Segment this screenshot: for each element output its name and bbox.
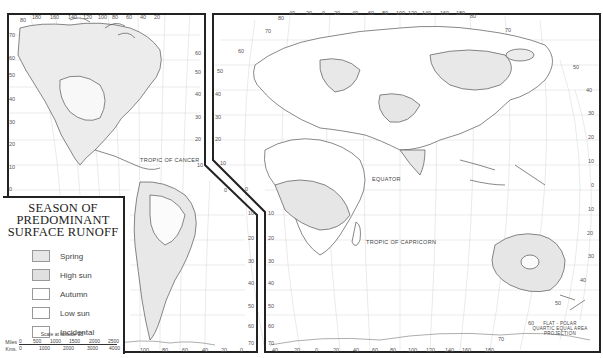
equator-label: EQUATOR xyxy=(372,176,401,182)
scale-tick: 1000 xyxy=(39,345,50,351)
legend-label: Spring xyxy=(60,252,83,261)
scale-tick: 2000 xyxy=(63,345,74,351)
tick: 120 xyxy=(408,10,417,16)
tick: 50 xyxy=(217,68,223,74)
tick: 20 xyxy=(587,230,593,236)
tick: 20 xyxy=(294,347,300,353)
tick: 80 xyxy=(390,347,396,353)
tick: 140 xyxy=(445,347,454,353)
tick: 80 xyxy=(278,15,284,21)
swatch-autumn xyxy=(32,288,50,300)
tick: 40 xyxy=(289,10,295,16)
tick: 160 xyxy=(440,10,449,16)
scale-tick: 3000 xyxy=(87,345,98,351)
eurasia xyxy=(254,26,553,150)
tick: 50 xyxy=(573,64,579,70)
tick: 40 xyxy=(140,14,146,20)
tick: 0 xyxy=(240,347,243,353)
tick: 40 xyxy=(353,347,359,353)
tick: 70 xyxy=(268,340,274,346)
scale-tick: 0 xyxy=(19,345,22,351)
tick: 30 xyxy=(195,114,201,120)
swatch-low-sun xyxy=(32,307,50,319)
tick: 30 xyxy=(248,258,254,264)
scale-unit-kms: Kms. xyxy=(3,346,19,352)
tick: 20 xyxy=(334,10,340,16)
tick: 20 xyxy=(195,136,201,142)
tick: 20 xyxy=(588,134,594,140)
tick: 50 xyxy=(248,303,254,309)
legend-item-low-sun: Low sun xyxy=(32,304,123,322)
tick: 80 xyxy=(112,14,118,20)
tick: 180 xyxy=(456,10,465,16)
tick: 20 xyxy=(221,347,227,353)
tick: 60 xyxy=(238,48,244,54)
tick: 20 xyxy=(154,14,160,20)
tick: 160 xyxy=(462,347,471,353)
tick: 70 xyxy=(248,340,254,346)
legend-label: High sun xyxy=(60,271,92,280)
antarctica-edge xyxy=(110,333,590,345)
tick: 60 xyxy=(528,320,534,326)
tick: 20 xyxy=(333,347,339,353)
tick: 10 xyxy=(268,210,274,216)
projection-line: PROJECTION xyxy=(530,331,590,336)
scale-bar: Scale at latitude 35° Miles 0 500 1000 1… xyxy=(3,331,123,352)
tick: 30 xyxy=(588,253,594,259)
tick: 60 xyxy=(248,323,254,329)
tick: 100 xyxy=(140,347,149,353)
tick: 50 xyxy=(555,300,561,306)
tick: 20 xyxy=(268,235,274,241)
tick: 40 xyxy=(268,280,274,286)
north-america xyxy=(18,18,161,170)
tick: 10 xyxy=(197,162,203,168)
tick: 20 xyxy=(306,10,312,16)
tick: 0 xyxy=(315,347,318,353)
tick: 20 xyxy=(248,235,254,241)
legend-item-spring: Spring xyxy=(32,247,123,265)
tick: 40 xyxy=(202,347,208,353)
projection-note: FLAT - POLAR QUARTIC EQUAL AREA PROJECTI… xyxy=(530,321,590,336)
tick: 50 xyxy=(195,69,201,75)
tick: 180 xyxy=(32,14,41,20)
legend-item-autumn: Autumn xyxy=(32,285,123,303)
tick: 60 xyxy=(126,14,132,20)
tick: 60 xyxy=(9,55,15,61)
south-america xyxy=(134,182,196,340)
tick: 30 xyxy=(9,119,15,125)
tick: 60 xyxy=(268,323,274,329)
legend-label: Autumn xyxy=(60,290,88,299)
tick: 40 xyxy=(352,10,358,16)
tick: 140 xyxy=(68,14,77,20)
tick: 100 xyxy=(408,347,417,353)
tick: 30 xyxy=(588,110,594,116)
tick: 40 xyxy=(9,96,15,102)
tick: 0 xyxy=(245,186,248,192)
tick: 70 xyxy=(265,28,271,34)
tick: 30 xyxy=(215,114,221,120)
tick: 40 xyxy=(248,280,254,286)
legend-item-high-sun: High sun xyxy=(32,266,123,284)
tick: 60 xyxy=(372,347,378,353)
tick: 70 xyxy=(498,336,504,342)
tick: 0 xyxy=(224,187,227,193)
scale-kms-row: Kms. 0 1000 2000 3000 4000 xyxy=(3,345,123,352)
tick: 70 xyxy=(9,32,15,38)
scale-tick: 4000 xyxy=(109,345,120,351)
tick: 0 xyxy=(9,186,12,192)
tick: 20 xyxy=(9,141,15,147)
australia xyxy=(492,234,585,310)
tick: 70 xyxy=(505,27,511,33)
tick: 0 xyxy=(322,10,325,16)
tick: 80 xyxy=(382,10,388,16)
tropic-of-capricorn-label: TROPIC OF CAPRICORN xyxy=(366,239,436,245)
scale-unit-miles: Miles xyxy=(3,339,19,345)
legend-label: Low sun xyxy=(60,309,90,318)
tick: 80 xyxy=(470,13,476,19)
tropic-of-cancer-label: TROPIC OF CANCER xyxy=(140,157,200,163)
tick: 40 xyxy=(272,347,278,353)
tick: 60 xyxy=(182,347,188,353)
tick: 120 xyxy=(83,14,92,20)
legend: SEASON OF PREDOMINANT SURFACE RUNOFF Spr… xyxy=(3,196,125,354)
legend-items: Spring High sun Autumn Low sun Incidenta… xyxy=(32,247,123,341)
